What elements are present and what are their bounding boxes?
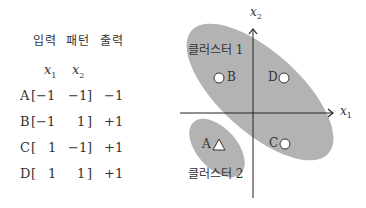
x1-axis-label: x1 bbox=[340, 104, 352, 120]
table-row-a: A [ −1 −1 ] −1 bbox=[0, 88, 180, 106]
value-x2: 1 bbox=[77, 114, 85, 129]
var-x2: x2 bbox=[72, 62, 84, 80]
point-d-label: D bbox=[268, 70, 278, 84]
point-b-label: B bbox=[227, 70, 236, 84]
point-d-circle-icon bbox=[279, 73, 289, 83]
table-row-c: C [ 1 −1 ] +1 bbox=[0, 140, 180, 158]
point-c-circle-icon bbox=[280, 139, 290, 149]
var-x1: x1 bbox=[44, 62, 56, 80]
row-label: A bbox=[20, 88, 29, 103]
table-row-b: B [ −1 1 ] +1 bbox=[0, 114, 180, 132]
bracket-open: [ bbox=[31, 140, 36, 155]
row-label: D bbox=[20, 166, 30, 181]
value-x1: −1 bbox=[36, 88, 55, 103]
header-pattern: 패턴 bbox=[66, 31, 89, 48]
bracket-close: ] bbox=[87, 114, 92, 129]
bracket-close: ] bbox=[87, 140, 92, 155]
bracket-close: ] bbox=[87, 166, 92, 181]
bracket-close: ] bbox=[87, 88, 92, 103]
value-output: −1 bbox=[104, 88, 123, 103]
point-c-label: C bbox=[269, 136, 278, 150]
x2-axis-label: x2 bbox=[250, 5, 262, 21]
point-a-label: A bbox=[202, 137, 211, 151]
value-x1: 1 bbox=[48, 140, 56, 155]
value-x2: −1 bbox=[68, 140, 87, 155]
value-x1: −1 bbox=[36, 114, 55, 129]
cluster-2-label: 클러스터 2 bbox=[188, 164, 243, 181]
row-label: B bbox=[20, 114, 30, 129]
input-pattern-table: 입력 패턴 출력 x1 x2 A [ −1 −1 ] −1 B [ −1 1 ]… bbox=[0, 0, 180, 208]
header-input: 입력 bbox=[33, 31, 56, 48]
value-output: +1 bbox=[104, 114, 123, 129]
header-output: 출력 bbox=[100, 31, 123, 48]
row-label: C bbox=[20, 140, 30, 155]
value-x2: −1 bbox=[68, 88, 87, 103]
table-row-d: D [ 1 1 ] +1 bbox=[0, 166, 180, 184]
value-x2: 1 bbox=[77, 166, 85, 181]
bracket-open: [ bbox=[31, 166, 36, 181]
value-output: +1 bbox=[104, 166, 123, 181]
value-output: +1 bbox=[104, 140, 123, 155]
value-x1: 1 bbox=[48, 166, 56, 181]
point-b-circle-icon bbox=[214, 73, 224, 83]
cluster-1-label: 클러스터 1 bbox=[188, 40, 243, 57]
cluster-diagram: x2 x1 클러스터 1 클러스터 2 B D C A bbox=[180, 0, 366, 208]
